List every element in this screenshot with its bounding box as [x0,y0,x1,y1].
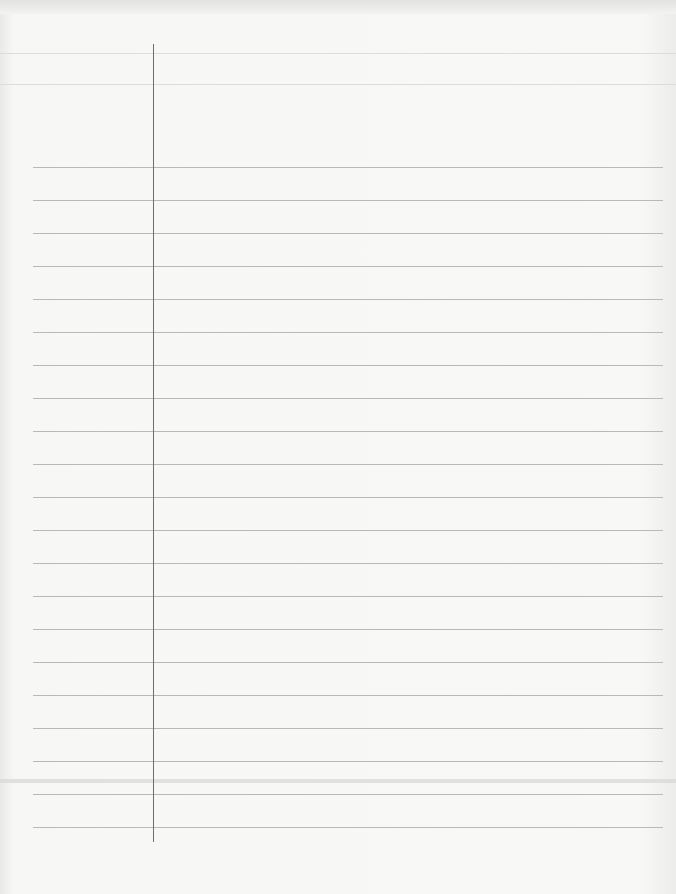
scan-band [0,779,676,783]
ruled-line [33,728,663,729]
ruled-line [33,761,663,762]
ruled-line [33,662,663,663]
faint-line [0,53,676,54]
faint-line [0,84,676,85]
ruled-line [33,464,663,465]
ruled-line [33,497,663,498]
ruled-line [33,794,663,795]
ruled-paper-sheet [0,0,676,894]
margin-line [153,44,154,842]
ruled-line [33,431,663,432]
ruled-line [33,596,663,597]
ruled-line [33,167,663,168]
ruled-line [33,563,663,564]
ruled-line [33,827,663,828]
scan-shadow-top [0,0,676,14]
ruled-line [33,233,663,234]
ruled-line [33,266,663,267]
ruled-line [33,530,663,531]
ruled-line [33,365,663,366]
ruled-line [33,299,663,300]
ruled-line [33,200,663,201]
ruled-line [33,629,663,630]
ruled-line [33,695,663,696]
ruled-line [33,332,663,333]
ruled-line [33,398,663,399]
